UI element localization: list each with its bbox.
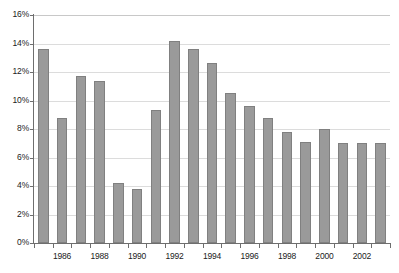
- x-tick-mark: [240, 244, 241, 248]
- y-tick-mark: [30, 101, 34, 102]
- x-tick-label: 2002: [353, 252, 371, 261]
- x-tick-mark: [71, 244, 72, 248]
- x-tick-mark: [165, 244, 166, 248]
- bar: [319, 129, 329, 243]
- x-tick-mark: [128, 244, 129, 248]
- x-tick-label: 2000: [315, 252, 333, 261]
- y-tick-mark: [30, 15, 34, 16]
- x-tick-label: 1998: [278, 252, 296, 261]
- x-tick-label: 1996: [240, 252, 258, 261]
- bar: [76, 76, 86, 243]
- y-tick-mark: [30, 72, 34, 73]
- plot-area: [34, 15, 390, 243]
- bar-chart: 0%2%4%6%8%10%12%14%16% 19861988199019921…: [0, 0, 399, 273]
- x-tick-mark: [259, 244, 260, 248]
- y-tick-label: 14%: [1, 39, 29, 48]
- bar: [188, 49, 198, 243]
- x-tick-mark: [90, 244, 91, 248]
- bar: [132, 189, 142, 243]
- x-tick-mark: [371, 244, 372, 248]
- y-tick-label: 2%: [1, 210, 29, 219]
- bar: [375, 143, 385, 243]
- bar: [338, 143, 348, 243]
- x-tick-mark: [34, 244, 35, 248]
- bar: [263, 118, 273, 243]
- bar: [225, 93, 235, 243]
- bar: [151, 110, 161, 243]
- x-tick-mark: [184, 244, 185, 248]
- bar: [94, 81, 104, 243]
- x-tick-mark: [146, 244, 147, 248]
- y-axis-labels: 0%2%4%6%8%10%12%14%16%: [0, 0, 29, 273]
- x-tick-mark: [203, 244, 204, 248]
- x-axis-line: [33, 243, 391, 244]
- x-tick-mark: [278, 244, 279, 248]
- bar: [282, 132, 292, 243]
- x-tick-mark: [296, 244, 297, 248]
- y-tick-label: 8%: [1, 124, 29, 133]
- x-tick-mark: [109, 244, 110, 248]
- x-tick-mark: [353, 244, 354, 248]
- y-tick-mark: [30, 158, 34, 159]
- bar: [357, 143, 367, 243]
- x-tick-mark: [221, 244, 222, 248]
- x-tick-mark: [390, 244, 391, 248]
- y-tick-mark: [30, 186, 34, 187]
- y-tick-mark: [30, 44, 34, 45]
- bar: [300, 142, 310, 243]
- bar: [169, 41, 179, 243]
- gridline: [34, 15, 390, 16]
- bar: [244, 106, 254, 243]
- x-tick-label: 1990: [128, 252, 146, 261]
- x-tick-mark: [53, 244, 54, 248]
- x-tick-mark: [315, 244, 316, 248]
- bar: [38, 49, 48, 243]
- x-tick-label: 1988: [91, 252, 109, 261]
- y-tick-label: 10%: [1, 96, 29, 105]
- x-tick-mark: [334, 244, 335, 248]
- bar: [113, 183, 123, 243]
- y-tick-label: 16%: [1, 10, 29, 19]
- y-tick-label: 4%: [1, 181, 29, 190]
- y-tick-label: 0%: [1, 238, 29, 247]
- y-tick-mark: [30, 215, 34, 216]
- x-tick-label: 1994: [203, 252, 221, 261]
- bar: [57, 118, 67, 243]
- x-tick-label: 1986: [53, 252, 71, 261]
- bar: [207, 63, 217, 243]
- x-tick-label: 1992: [165, 252, 183, 261]
- y-tick-label: 12%: [1, 67, 29, 76]
- y-tick-label: 6%: [1, 153, 29, 162]
- y-tick-mark: [30, 129, 34, 130]
- gridline: [34, 44, 390, 45]
